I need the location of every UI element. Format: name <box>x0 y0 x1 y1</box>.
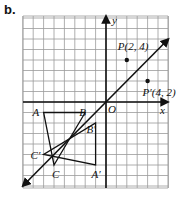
point-label: P(2, 4) <box>117 40 149 53</box>
origin-label: O <box>108 103 116 115</box>
point-marker <box>145 79 149 83</box>
vertex-label: B′ <box>87 123 97 135</box>
vertex-label: C <box>52 168 60 180</box>
point-marker <box>125 58 129 62</box>
y-axis-label: y <box>111 14 117 26</box>
point-label: P′(4, 2) <box>142 86 176 99</box>
part-label: b. <box>4 2 16 17</box>
vertex-label: A′ <box>91 168 102 180</box>
vertex-label: B <box>79 106 86 118</box>
reflection-diagram: b. x y O P(2, 4)P′(4, 2) ABCA′B′C′ <box>0 0 178 200</box>
x-axis-label: x <box>159 104 165 116</box>
vertex-label: C′ <box>31 149 41 161</box>
vertex-label: A <box>32 106 40 118</box>
